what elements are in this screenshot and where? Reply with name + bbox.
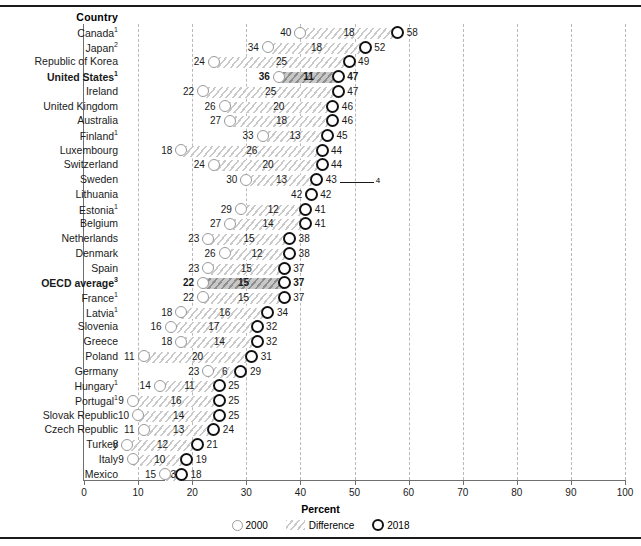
marker-2018[interactable] — [261, 306, 274, 319]
row-label-united-states: United States1 — [0, 70, 118, 83]
marker-2018[interactable] — [305, 188, 318, 201]
value-2018: 18 — [190, 466, 201, 484]
marker-2000[interactable] — [127, 453, 139, 465]
tick-label-70: 70 — [443, 487, 483, 498]
value-difference: 3 — [153, 466, 193, 484]
marker-2000[interactable] — [202, 233, 214, 245]
marker-2018[interactable] — [278, 262, 291, 275]
marker-2018[interactable] — [326, 114, 339, 127]
marker-2000[interactable] — [273, 71, 285, 83]
marker-2018[interactable] — [283, 232, 296, 245]
row-label-oecd-average: OECD average3 — [0, 276, 118, 289]
marker-2000[interactable] — [224, 218, 236, 230]
marker-2018[interactable] — [359, 41, 372, 54]
marker-2018[interactable] — [316, 144, 329, 157]
marker-2018[interactable] — [299, 217, 312, 230]
row-label-latvia: Latvia1 — [0, 306, 118, 319]
row-label-finland: Finland1 — [0, 129, 118, 142]
marker-2018[interactable] — [326, 100, 339, 113]
row-label-australia: Australia — [0, 114, 118, 126]
marker-2018[interactable] — [251, 320, 264, 333]
row-label-greece: Greece — [0, 335, 118, 347]
footnote-marker: 1 — [114, 291, 118, 298]
row-label-france: France1 — [0, 291, 118, 304]
legend-label-2000: 2000 — [246, 520, 268, 531]
marker-2018[interactable] — [278, 276, 291, 289]
marker-2018[interactable] — [321, 129, 334, 142]
open-circle-bold-icon — [372, 519, 384, 531]
marker-2018[interactable] — [213, 379, 226, 392]
tick-label-80: 80 — [497, 487, 537, 498]
marker-2018[interactable] — [299, 203, 312, 216]
row-label-japan: Japan2 — [0, 41, 118, 54]
footnote-marker: 1 — [114, 26, 118, 33]
row-label-ireland: Ireland — [0, 85, 118, 97]
legend-item-2000[interactable]: 2000 — [232, 520, 268, 531]
marker-2000[interactable] — [154, 380, 166, 392]
marker-2000[interactable] — [224, 115, 236, 127]
marker-2000[interactable] — [138, 424, 150, 436]
tick-label-100: 100 — [605, 487, 641, 498]
marker-2000[interactable] — [165, 321, 177, 333]
footnote-marker: 1 — [114, 203, 118, 210]
marker-2018[interactable] — [180, 453, 193, 466]
marker-2018[interactable] — [283, 247, 296, 260]
marker-2018[interactable] — [310, 173, 323, 186]
value-2000: 15 — [116, 466, 156, 484]
tick-label-30: 30 — [226, 487, 266, 498]
marker-2018[interactable] — [332, 85, 345, 98]
footnote-marker: 3 — [114, 276, 118, 283]
marker-2018[interactable] — [207, 423, 220, 436]
marker-2000[interactable] — [127, 395, 139, 407]
footnote-marker: 1 — [114, 70, 118, 77]
row-label-belgium: Belgium — [0, 217, 118, 229]
marker-2000[interactable] — [257, 130, 269, 142]
open-circle-light-icon — [232, 520, 243, 531]
marker-2000[interactable] — [235, 203, 247, 215]
chart-page: Country 0102030405060708090100 Canada140… — [0, 0, 641, 546]
marker-2000[interactable] — [208, 56, 220, 68]
row-label-luxembourg: Luxembourg — [0, 144, 118, 156]
marker-2000[interactable] — [208, 159, 220, 171]
footnote-marker: 1 — [114, 129, 118, 136]
marker-2018[interactable] — [213, 394, 226, 407]
row-label-estonia: Estonia1 — [0, 203, 118, 216]
row-label-switzerland: Switzerland — [0, 158, 118, 170]
marker-2000[interactable] — [121, 439, 133, 451]
row-label-spain: Spain — [0, 262, 118, 274]
marker-2018[interactable] — [251, 335, 264, 348]
row-label-germany: Germany — [0, 365, 118, 377]
tick-label-60: 60 — [389, 487, 429, 498]
marker-2000[interactable] — [197, 277, 209, 289]
legend-label-2018: 2018 — [387, 520, 409, 531]
row-label-hungary: Hungary1 — [0, 379, 118, 392]
row-label-sweden: Sweden — [0, 173, 118, 185]
row-label-lithuania: Lithuania — [0, 188, 118, 200]
legend-item-2018[interactable]: 2018 — [372, 519, 409, 531]
hatched-bar-icon — [286, 520, 305, 530]
marker-2000[interactable] — [294, 27, 306, 39]
footnote-marker: 2 — [114, 41, 118, 48]
horizontal-dumbbell-chart: Country 0102030405060708090100 Canada140… — [0, 0, 641, 546]
legend-label-difference: Difference — [309, 520, 354, 531]
marker-2018[interactable] — [191, 438, 204, 451]
tick-label-10: 10 — [118, 487, 158, 498]
marker-2018[interactable] — [343, 55, 356, 68]
footnote-marker-4: 4 — [376, 176, 380, 185]
marker-2000[interactable] — [240, 174, 252, 186]
marker-2000[interactable] — [219, 247, 231, 259]
chart-legend: 2000Difference2018 — [0, 519, 641, 531]
marker-2000[interactable] — [219, 100, 231, 112]
marker-2000[interactable] — [138, 350, 150, 362]
marker-2018[interactable] — [278, 291, 291, 304]
tick-label-50: 50 — [335, 487, 375, 498]
marker-2018[interactable] — [213, 409, 226, 422]
tick-label-20: 20 — [172, 487, 212, 498]
chart-row: Mexico15318 — [0, 466, 641, 484]
marker-2018[interactable] — [332, 70, 345, 83]
marker-2018[interactable] — [316, 158, 329, 171]
marker-2018[interactable] — [245, 350, 258, 363]
marker-2000[interactable] — [175, 336, 187, 348]
marker-2018[interactable] — [391, 26, 404, 39]
legend-item-difference[interactable]: Difference — [286, 520, 354, 531]
